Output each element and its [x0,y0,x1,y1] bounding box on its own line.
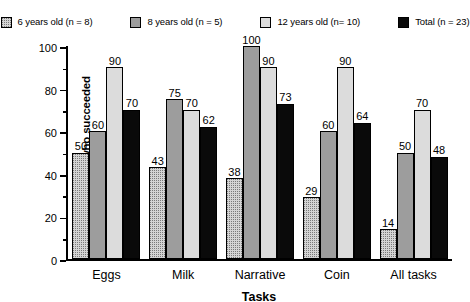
x-tick-label: Eggs [92,268,121,282]
bar-slot: 70 [183,46,200,259]
y-tick-label: 100 [39,43,57,54]
bar-value-label: 60 [322,120,334,131]
bar[interactable]: 73 [277,104,294,259]
bar-slot: 70 [414,46,431,259]
bar[interactable]: 60 [89,131,106,259]
chart-legend: 6 years old (n = 8) 8 years old (n = 5) … [0,13,470,31]
bar-value-label: 70 [126,98,138,109]
bar-group: 43757062Milk [145,46,222,259]
x-tick-label: All tasks [390,268,437,282]
y-tick-major [60,175,66,177]
bar[interactable]: 50 [72,153,89,260]
bar-slot: 43 [149,46,166,259]
y-tick-minor [63,111,67,113]
bar-value-label: 38 [228,167,240,178]
y-tick-minor [63,196,67,198]
bar-slot: 70 [123,46,140,259]
legend-swatch-grid-icon [260,17,271,28]
bar[interactable]: 70 [183,110,200,259]
bar-slot: 75 [166,46,183,259]
y-tick-minor [63,239,67,241]
y-tick-minor [63,154,67,156]
bar[interactable]: 90 [337,67,354,259]
x-tick-label: Coin [324,268,350,282]
bar[interactable]: 62 [200,127,217,259]
y-tick-major [60,47,66,49]
bar-value-label: 90 [339,56,351,67]
bar-slot: 60 [89,46,106,259]
bar-slot: 73 [277,46,294,259]
y-tick-major [60,90,66,92]
bar-value-label: 90 [262,56,274,67]
x-axis-label: Tasks [66,290,452,302]
bar-group: 29609064Coin [298,46,375,259]
legend-item-12-years-old: 12 years old (n= 10) [260,17,360,28]
bar-slot: 38 [226,46,243,259]
bar[interactable]: 90 [106,67,123,259]
legend-swatch-solid-black-icon [398,17,409,28]
x-axis-line [66,259,452,261]
y-tick-label: 20 [45,213,57,224]
bar-slot: 100 [243,46,260,259]
bar[interactable]: 100 [243,46,260,259]
bar-chart-figure: 6 years old (n = 8) 8 years old (n = 5) … [0,0,470,302]
bar-value-label: 50 [75,141,87,152]
bar-value-label: 70 [416,98,428,109]
bar-group: 381009073Narrative [222,46,299,259]
y-tick-major [60,260,66,262]
y-tick-label: 40 [45,170,57,181]
bar[interactable]: 14 [380,229,397,259]
bar[interactable]: 43 [149,167,166,259]
legend-item-total: Total (n = 23) [398,17,469,28]
bar-slot: 50 [397,46,414,259]
bar-value-label: 73 [279,92,291,103]
bar-slot: 90 [106,46,123,259]
y-tick-minor [63,69,67,71]
x-tick-label: Narrative [235,268,286,282]
bar-slot: 29 [303,46,320,259]
plot-area: % of children who succeeded 020406080100… [66,46,452,261]
legend-item-8-years-old: 8 years old (n = 5) [130,17,222,28]
bar-value-label: 14 [382,218,394,229]
bar-value-label: 50 [399,141,411,152]
bar[interactable]: 50 [397,153,414,260]
bar-value-label: 75 [169,88,181,99]
bar[interactable]: 70 [414,110,431,259]
y-tick-label: 80 [45,85,57,96]
legend-swatch-stipple-icon [1,17,12,28]
bar[interactable]: 29 [303,197,320,259]
x-tick-label: Milk [172,268,194,282]
bar-slot: 90 [337,46,354,259]
bar-slot: 50 [72,46,89,259]
bar-slot: 48 [431,46,448,259]
bar-groups: 50609070Eggs43757062Milk381009073Narrati… [68,46,452,259]
bar-value-label: 43 [152,156,164,167]
bar[interactable]: 70 [123,110,140,259]
legend-label-6-years-old: 6 years old (n = 8) [18,17,93,27]
legend-label-8-years-old: 8 years old (n = 5) [147,17,222,27]
bar[interactable]: 64 [354,123,371,259]
bar-slot: 90 [260,46,277,259]
bar-value-label: 90 [109,56,121,67]
bar-slot: 60 [320,46,337,259]
bar-value-label: 62 [203,115,215,126]
bar-slot: 14 [380,46,397,259]
y-tick-label: 0 [51,256,57,267]
bar-value-label: 60 [92,120,104,131]
bar[interactable]: 75 [166,99,183,259]
bar-slot: 62 [200,46,217,259]
bar-group: 14507048All tasks [375,46,452,259]
y-tick-major [60,132,66,134]
bar[interactable]: 48 [431,157,448,259]
legend-swatch-solid-gray-icon [130,17,141,28]
bar-value-label: 48 [433,145,445,156]
bar[interactable]: 90 [260,67,277,259]
bar-value-label: 29 [305,186,317,197]
bar-value-label: 64 [356,111,368,122]
bar-slot: 64 [354,46,371,259]
bar[interactable]: 60 [320,131,337,259]
bar-group: 50609070Eggs [68,46,145,259]
legend-item-6-years-old: 6 years old (n = 8) [1,17,93,28]
bar-value-label: 100 [242,35,260,46]
bar[interactable]: 38 [226,178,243,259]
